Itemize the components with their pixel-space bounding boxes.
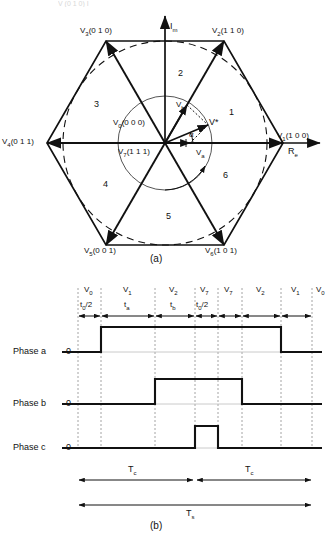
axis-label-real: Re [288,147,298,158]
sector-label-5: 5 [166,212,171,221]
state-7-sub: 0 [321,290,324,296]
v1-states: (1 0 0) [286,131,309,140]
vector-v5 [106,143,165,245]
projection-vb-to-vstar [187,105,208,125]
state-label-2: V2 [169,286,178,296]
alpha-angle-label: α [189,131,194,139]
state-5-sub: 2 [261,290,264,296]
v4-states: (0 1 1) [11,137,34,146]
v2-states: (1 1 0) [221,26,244,35]
vector-label-v2: V2(1 1 0) [212,27,244,37]
state-6-sub: 1 [296,290,299,296]
v6-states: (1 0 1) [214,246,237,255]
duration-label-t0-half-first: t0/2 [80,301,92,311]
vb-sub: b [181,105,184,111]
state-boundary-gridlines [78,288,312,448]
channel-zero-phase-a: 0 [66,347,71,356]
vector-label-v0-zero: V0(0 0 0) [113,119,145,129]
state-label-3: V7 [200,286,209,296]
state-4-sub: 7 [229,290,232,296]
duration-label-t0-half-second: t0/2 [196,301,208,311]
sector-label-6: 6 [223,171,228,180]
va-sub: a [201,153,204,159]
sector-label-4: 4 [103,180,108,189]
sector-label-2: 2 [178,69,183,78]
channel-zero-phase-b: 0 [66,399,71,408]
tc1-sub: c [134,470,137,476]
duration-label-tb: tb [170,301,176,311]
real-axis-sub: e [295,152,298,158]
reference-vector-label: V* [209,118,219,127]
channel-label-phase-c: Phase c [13,443,46,452]
component-vb-label: Vb [176,101,185,111]
dur1-sub: a [126,305,129,311]
vector-label-v7-zero: V7(1 1 1) [118,148,150,158]
vector-v6 [165,143,224,245]
channel-label-phase-b: Phase b [13,399,46,408]
sector-label-1: 1 [229,108,234,117]
dur3-suffix: /2 [202,300,209,309]
timebar-label-ts: Ts [186,509,195,520]
state-label-7: V0 [316,286,325,296]
channel-label-phase-a: Phase a [13,347,46,356]
state-3-sub: 7 [205,290,208,296]
panel-space-vector-hexagon: V3(0 1 0) V2(1 1 0) V1(1 0 0) V4(0 1 1) … [0,0,330,272]
v5-states: (0 0 1) [93,246,116,255]
state-label-5: V2 [256,286,265,296]
v7-states: (1 1 1) [127,147,150,156]
phase-a-waveform [62,327,322,352]
component-vb-vector [165,105,187,143]
tc2-sub: c [251,470,254,476]
timebar-label-tc-first: Tc [128,465,137,476]
state-label-1: V1 [123,286,132,296]
vector-label-v1: V1(1 0 0) [277,132,309,142]
state-2-sub: 2 [174,290,177,296]
state-0-sub: 0 [89,290,92,296]
vector-label-v3: V3(0 1 0) [80,27,112,37]
ts-sub: s [192,514,195,520]
waveform-svg [0,272,330,539]
vector-label-v6: V6(1 0 1) [205,247,237,257]
state-1-sub: 1 [128,290,131,296]
sector-label-3: 3 [94,100,99,109]
channel-zero-phase-c: 0 [66,443,71,452]
duration-label-ta: ta [124,301,130,311]
vector-label-v5: V5(0 0 1) [84,247,116,257]
v0-states: (0 0 0) [122,118,145,127]
state-label-6: V1 [291,286,300,296]
state-label-0: V0 [84,286,93,296]
caption-b: (b) [150,520,162,531]
axis-label-imaginary: Im [170,22,178,33]
timebar-label-tc-second: Tc [245,465,254,476]
figure-root: V (0 1 0) I [0,0,330,539]
vector-label-v4: V4(0 1 1) [2,138,34,148]
panel-switching-waveforms: V0 V1 V2 V7 V7 V2 V1 V0 t0/2 ta tb t0/2 … [0,272,330,539]
state-label-4: V7 [224,286,233,296]
v3-states: (0 1 0) [89,26,112,35]
caption-a: (a) [150,253,162,264]
dur0-suffix: /2 [86,300,93,309]
dur2-sub: b [172,305,175,311]
imag-axis-sub: m [173,27,178,33]
component-va-label: Va [196,149,205,159]
